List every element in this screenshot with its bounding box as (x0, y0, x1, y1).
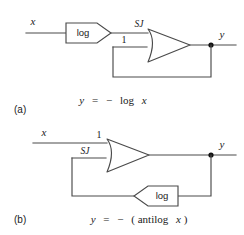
panel-b: x 1 SJ y log y = (14, 126, 236, 226)
panel-b-feedback-wire-right (178, 155, 211, 196)
panel-b-input-label: x (41, 126, 47, 138)
panel-b-eq-open-paren: ( (131, 213, 135, 226)
diagram-canvas: x log SJ 1 y y = (0, 0, 244, 235)
panel-a-input-label: x (30, 15, 36, 27)
panel-b-equation: y = − ( antilog x ) (90, 213, 188, 226)
panel-b-unity-gain-label: 1 (97, 129, 102, 140)
panel-a-log-block-label: log (77, 27, 90, 38)
panel-a-unity-gain-label: 1 (122, 34, 127, 45)
figure-root: x log SJ 1 y y = (0, 0, 244, 235)
panel-a-amplifier (148, 29, 190, 62)
panel-a-eq-function: log (120, 94, 135, 106)
panel-b-amplifier (107, 139, 149, 172)
panel-b-summing-junction-label: SJ (81, 146, 91, 156)
panel-b-eq-input-var: x (175, 213, 181, 225)
panel-a-summing-junction-label: SJ (135, 19, 145, 29)
panel-b-eq-equals: = (103, 213, 109, 225)
panel-b-part-label: (b) (14, 214, 26, 225)
panel-a-part-label: (a) (14, 104, 26, 115)
panel-a-eq-sign: − (106, 94, 112, 106)
panel-a-eq-input-var: x (141, 94, 147, 106)
panel-a-output-label: y (219, 28, 225, 40)
panel-b-eq-output-var: y (90, 213, 96, 225)
panel-b-eq-close-paren: ) (184, 213, 188, 226)
panel-b-eq-function: antilog (138, 213, 169, 225)
panel-a-eq-output-var: y (78, 94, 84, 106)
panel-b-output-label: y (219, 138, 225, 150)
panel-a-eq-equals: = (92, 94, 98, 106)
panel-a-equation: y = − log x (78, 94, 146, 106)
panel-a: x log SJ 1 y y = (14, 15, 236, 115)
panel-b-eq-sign: − (117, 213, 123, 225)
panel-b-log-block-label: log (156, 190, 169, 201)
